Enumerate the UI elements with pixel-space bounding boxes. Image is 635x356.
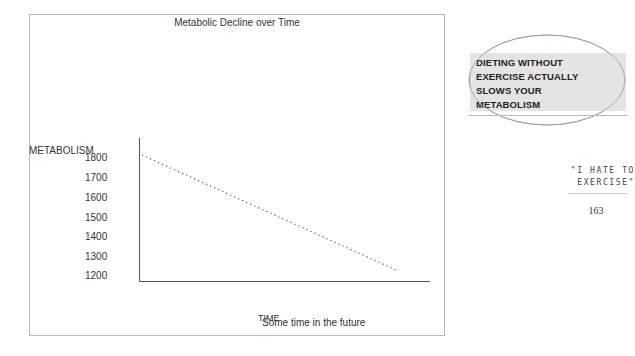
running-head-line-2: EXERCISE"	[561, 177, 635, 189]
callout-divider	[468, 115, 628, 116]
callout-line-2: EXERCISE ACTUALLY	[476, 70, 578, 84]
running-head-divider	[568, 193, 628, 194]
callout-line-4: METABOLISM	[476, 98, 578, 112]
callout-text: DIETING WITHOUT EXERCISE ACTUALLY SLOWS …	[476, 56, 578, 112]
x-axis-title: TIME	[258, 313, 280, 323]
callout-line-1: DIETING WITHOUT	[476, 56, 578, 70]
running-head: "I HATE TO EXERCISE"	[561, 165, 635, 189]
callout-line-3: SLOWS YOUR	[476, 84, 578, 98]
page-number: 163	[560, 205, 632, 216]
metabolism-dotted-line	[142, 155, 396, 270]
running-head-line-1: "I HATE TO	[561, 165, 635, 177]
